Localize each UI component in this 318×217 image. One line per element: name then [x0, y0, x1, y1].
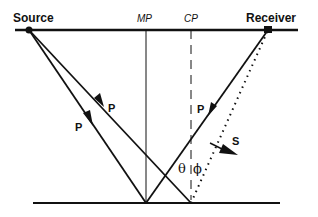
p-down-label-1: P: [75, 121, 82, 133]
p-up-label: P: [197, 103, 204, 115]
s-ray-up: [191, 30, 268, 203]
converted-wave-diagram: Source Receiver MP CP P P P S θ ϕ: [0, 0, 318, 217]
source-marker-icon: [26, 27, 33, 34]
conversion-point-label: CP: [184, 13, 198, 24]
phi-label: ϕ: [193, 161, 202, 176]
source-label: Source: [13, 11, 54, 25]
s-label: S: [232, 135, 239, 147]
receiver-label: Receiver: [246, 11, 296, 25]
p-down-label-2: P: [108, 102, 115, 114]
arrow-p-down-1-icon: [83, 110, 93, 126]
theta-label: θ: [178, 161, 186, 176]
receiver-marker-icon: [264, 26, 272, 33]
p-ray-down-cp: [29, 30, 191, 203]
p-ray-up: [146, 30, 268, 203]
midpoint-label: MP: [137, 13, 152, 24]
